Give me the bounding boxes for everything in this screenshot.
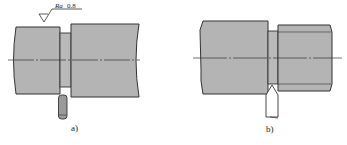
figure-a-right-section <box>71 24 139 97</box>
surface-finish-ra-label: Ra <box>54 2 63 10</box>
surface-finish-ra-value: 0.8 <box>67 2 76 10</box>
figure-b: b) <box>193 21 342 134</box>
figure-a-left-section <box>14 27 61 94</box>
figure-a-caption: a) <box>71 123 78 133</box>
figure-b-caption: b) <box>266 124 274 134</box>
surface-finish-symbol: Ra 0.8 <box>39 2 82 23</box>
diagram-canvas: Ra 0.8 a) b) <box>0 0 347 145</box>
figure-a-rounded-tool-icon <box>59 95 68 119</box>
figure-b-left-section <box>200 21 268 94</box>
figure-b-groove <box>268 31 278 84</box>
figure-a: Ra 0.8 a) <box>8 2 140 134</box>
